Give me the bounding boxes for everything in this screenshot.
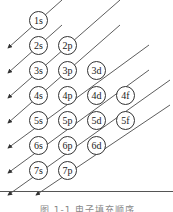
orbital-1s: 1s <box>29 11 48 30</box>
orbital-3d: 3d <box>87 61 106 80</box>
orbital-5f: 5f <box>116 111 135 130</box>
orbital-3s: 3s <box>29 61 48 80</box>
orbital-2s: 2s <box>29 36 48 55</box>
orbital-6p: 6p <box>58 136 77 155</box>
orbital-7p: 7p <box>58 161 77 180</box>
orbital-2p: 2p <box>58 36 77 55</box>
figure-caption: 图 1-1 电子填充顺序 <box>40 203 135 212</box>
orbital-6s: 6s <box>29 136 48 155</box>
orbital-7s: 7s <box>29 161 48 180</box>
orbital-4d: 4d <box>87 86 106 105</box>
aufbau-diagram: 1s2s2p3s3p3d4s4p4d4f5s5p5d5f6s6p6d7s7p 图… <box>0 0 173 212</box>
baseline <box>0 191 173 192</box>
orbital-5s: 5s <box>29 111 48 130</box>
orbital-3p: 3p <box>58 61 77 80</box>
orbital-5p: 5p <box>58 111 77 130</box>
orbital-5d: 5d <box>87 111 106 130</box>
diagonal-arrows <box>0 0 173 212</box>
orbital-4f: 4f <box>116 86 135 105</box>
orbital-4p: 4p <box>58 86 77 105</box>
orbital-4s: 4s <box>29 86 48 105</box>
orbital-6d: 6d <box>87 136 106 155</box>
